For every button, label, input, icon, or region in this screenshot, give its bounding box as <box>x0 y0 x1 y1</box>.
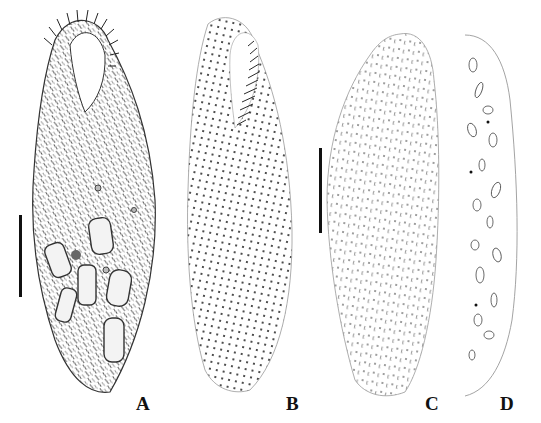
panel-c-cell <box>327 33 439 395</box>
panel-a-cell <box>33 10 156 392</box>
panel-b-cell <box>188 18 293 392</box>
panel-d-cell <box>465 35 517 396</box>
panel-label-b: B <box>286 394 299 413</box>
scale-bar-a <box>19 215 22 297</box>
figure: A B C D <box>0 0 541 423</box>
panel-label-a: A <box>136 394 150 413</box>
panel-label-d: D <box>500 394 514 413</box>
panel-label-c: C <box>425 394 439 413</box>
scale-bar-c <box>319 148 322 233</box>
figure-illustration <box>0 0 541 423</box>
